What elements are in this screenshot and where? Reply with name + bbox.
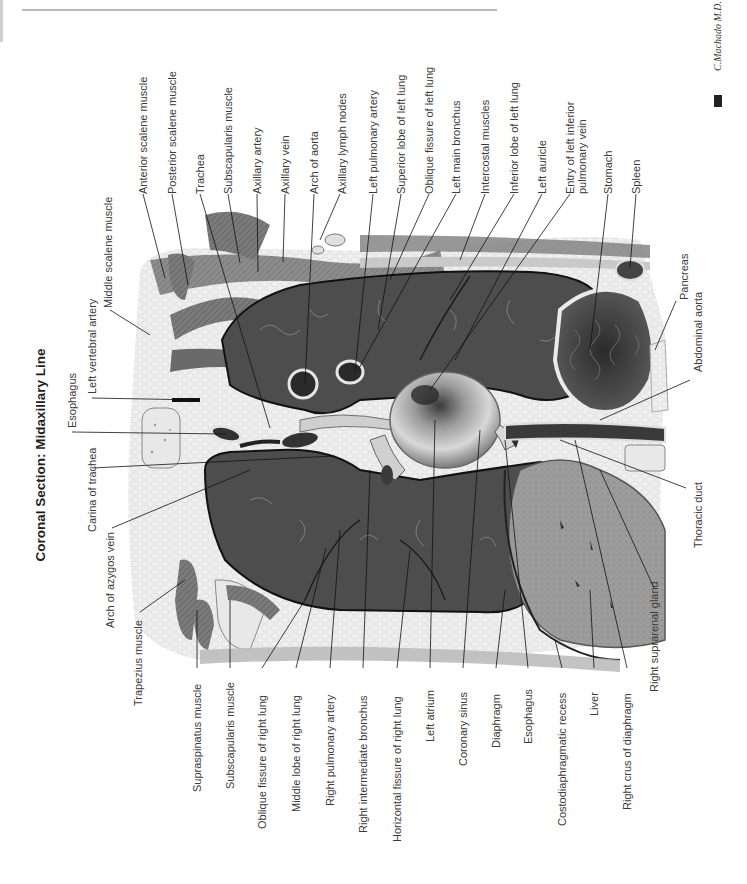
artist-signature: C.Machado M.D. [690,75,730,109]
label-subscapularis-muscle-bottom: Subscapularis muscle [224,682,236,789]
label-inferior-lobe-left-lung: Inferior lobe of left lung [508,82,520,194]
signature-text: C.Machado M.D. [712,1,723,71]
label-left-atrium: Left atrium [424,690,436,742]
label-diaphragm: Diaphragm [490,694,502,748]
label-trachea: Trachea [194,154,206,194]
label-right-pulmonary-artery: Right pulmonary artery [324,695,336,806]
label-supraspinatus-muscle: Supraspinatus muscle [191,684,203,792]
label-liver: Liver [588,692,600,716]
label-stomach: Stomach [602,151,614,194]
label-intercostal-muscles: Intercostal muscles [479,100,491,194]
page-title: Coronal Section: Midaxillary Line [33,348,48,561]
label-carina-of-trachea: Carina of trachea [86,448,98,532]
label-right-intermediate-bronchus: Right intermediate bronchus [357,695,369,833]
label-right-crus-of-diaphragm: Right crus of diaphragm [621,693,633,810]
label-middle-lobe-right-lung: Middle lobe of right lung [290,695,302,812]
label-left-main-bronchus: Left main bronchus [450,100,462,194]
label-left-vertebral-artery: Left vertebral artery [86,299,98,394]
label-horizontal-fissure-right-lung: Horizontal fissure of right lung [391,696,403,842]
label-oblique-fissure-left-lung: Oblique fissure of left lung [423,67,435,194]
label-posterior-scalene-muscle: Posterior scalene muscle [166,71,178,194]
label-right-suprarenal-gland: Right suprarenal gland [648,581,660,692]
label-thoracic-duct: Thoracic duct [692,482,704,548]
label-costodiaphragmatic-recess: Costodiaphragmatic recess [556,693,568,826]
label-esophagus-bottom: Esophagus [522,689,534,744]
label-axillary-artery: Axillary artery [251,127,263,194]
label-pancreas: Pancreas [678,254,690,300]
publisher-logo-icon [714,95,722,107]
label-subscapularis-muscle-top: Subscapularis muscle [222,87,234,194]
label-arch-of-azygos-vein: Arch of azygos vein [104,532,116,628]
label-abdominal-aorta: Abdominal aorta [692,292,704,372]
label-esophagus-left: Esophagus [66,373,78,428]
label-oblique-fissure-right-lung: Oblique fissure of right lung [256,695,268,829]
label-coronary-sinus: Coronary sinus [457,692,469,766]
label-left-pulmonary-artery: Left pulmonary artery [367,90,379,194]
label-superior-lobe-left-lung: Superior lobe of left lung [395,75,407,194]
label-left-auricle: Left auricle [536,140,548,194]
label-axillary-lymph-nodes: Axillary lymph nodes [336,93,348,194]
label-middle-scalene-muscle: Middle scalene muscle [102,197,114,308]
label-axillary-vein: Axillary vein [279,135,291,194]
label-entry-left-inferior-pulmonary-vein: Entry of left inferior pulmonary vein [564,102,588,194]
label-arch-of-aorta: Arch of aorta [308,131,320,194]
label-anterior-scalene-muscle: Anterior scalene muscle [137,77,149,194]
label-spleen: Spleen [630,160,642,194]
label-trapezius-muscle: Trapezius muscle [132,620,144,706]
